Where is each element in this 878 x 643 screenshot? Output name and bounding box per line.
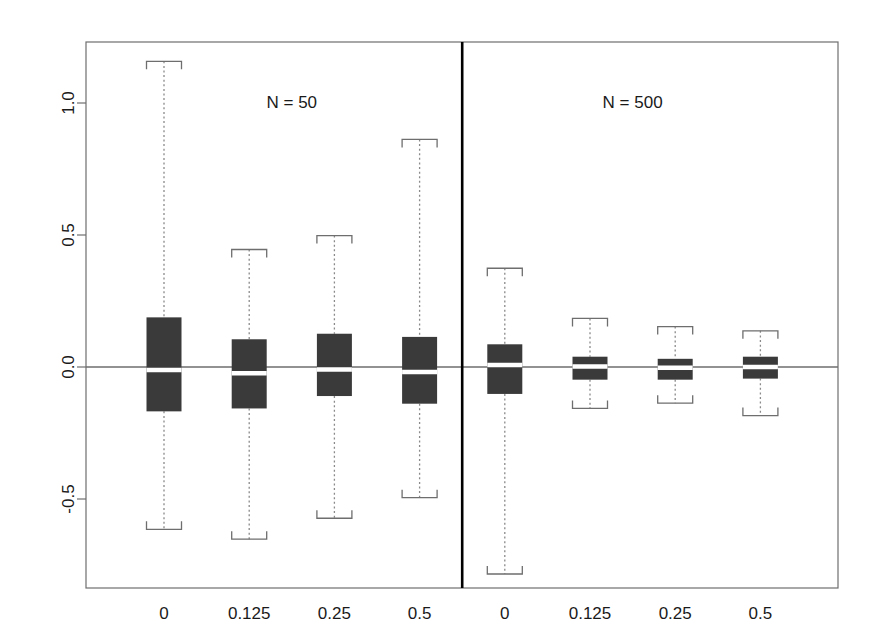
x-tick-label-8: 0.5 [749, 604, 773, 623]
x-tick-label-5: 0 [500, 604, 509, 623]
y-tick-label-0.5: 0.5 [59, 223, 78, 247]
x-tick-label-2: 0.125 [228, 604, 271, 623]
box-iqr [487, 344, 522, 394]
figure-background [0, 0, 878, 643]
boxplot-figure: -0.50.00.51.0 N = 50N = 500 00.1250.250.… [0, 0, 878, 643]
x-tick-label-1: 0 [159, 604, 168, 623]
box-iqr [147, 317, 182, 411]
x-tick-label-4: 0.5 [408, 604, 432, 623]
box-iqr [317, 334, 352, 396]
x-tick-label-6: 0.125 [569, 604, 612, 623]
y-tick-label--0.5: -0.5 [59, 484, 78, 513]
y-tick-label-0.0: 0.0 [59, 355, 78, 379]
panel-label-N50: N = 50 [267, 93, 318, 112]
boxplot-canvas: -0.50.00.51.0 N = 50N = 500 00.1250.250.… [0, 0, 878, 643]
y-tick-label-1.0: 1.0 [59, 91, 78, 115]
panel-label-N500: N = 500 [603, 93, 663, 112]
x-tick-label-7: 0.25 [659, 604, 692, 623]
x-tick-label-3: 0.25 [318, 604, 351, 623]
